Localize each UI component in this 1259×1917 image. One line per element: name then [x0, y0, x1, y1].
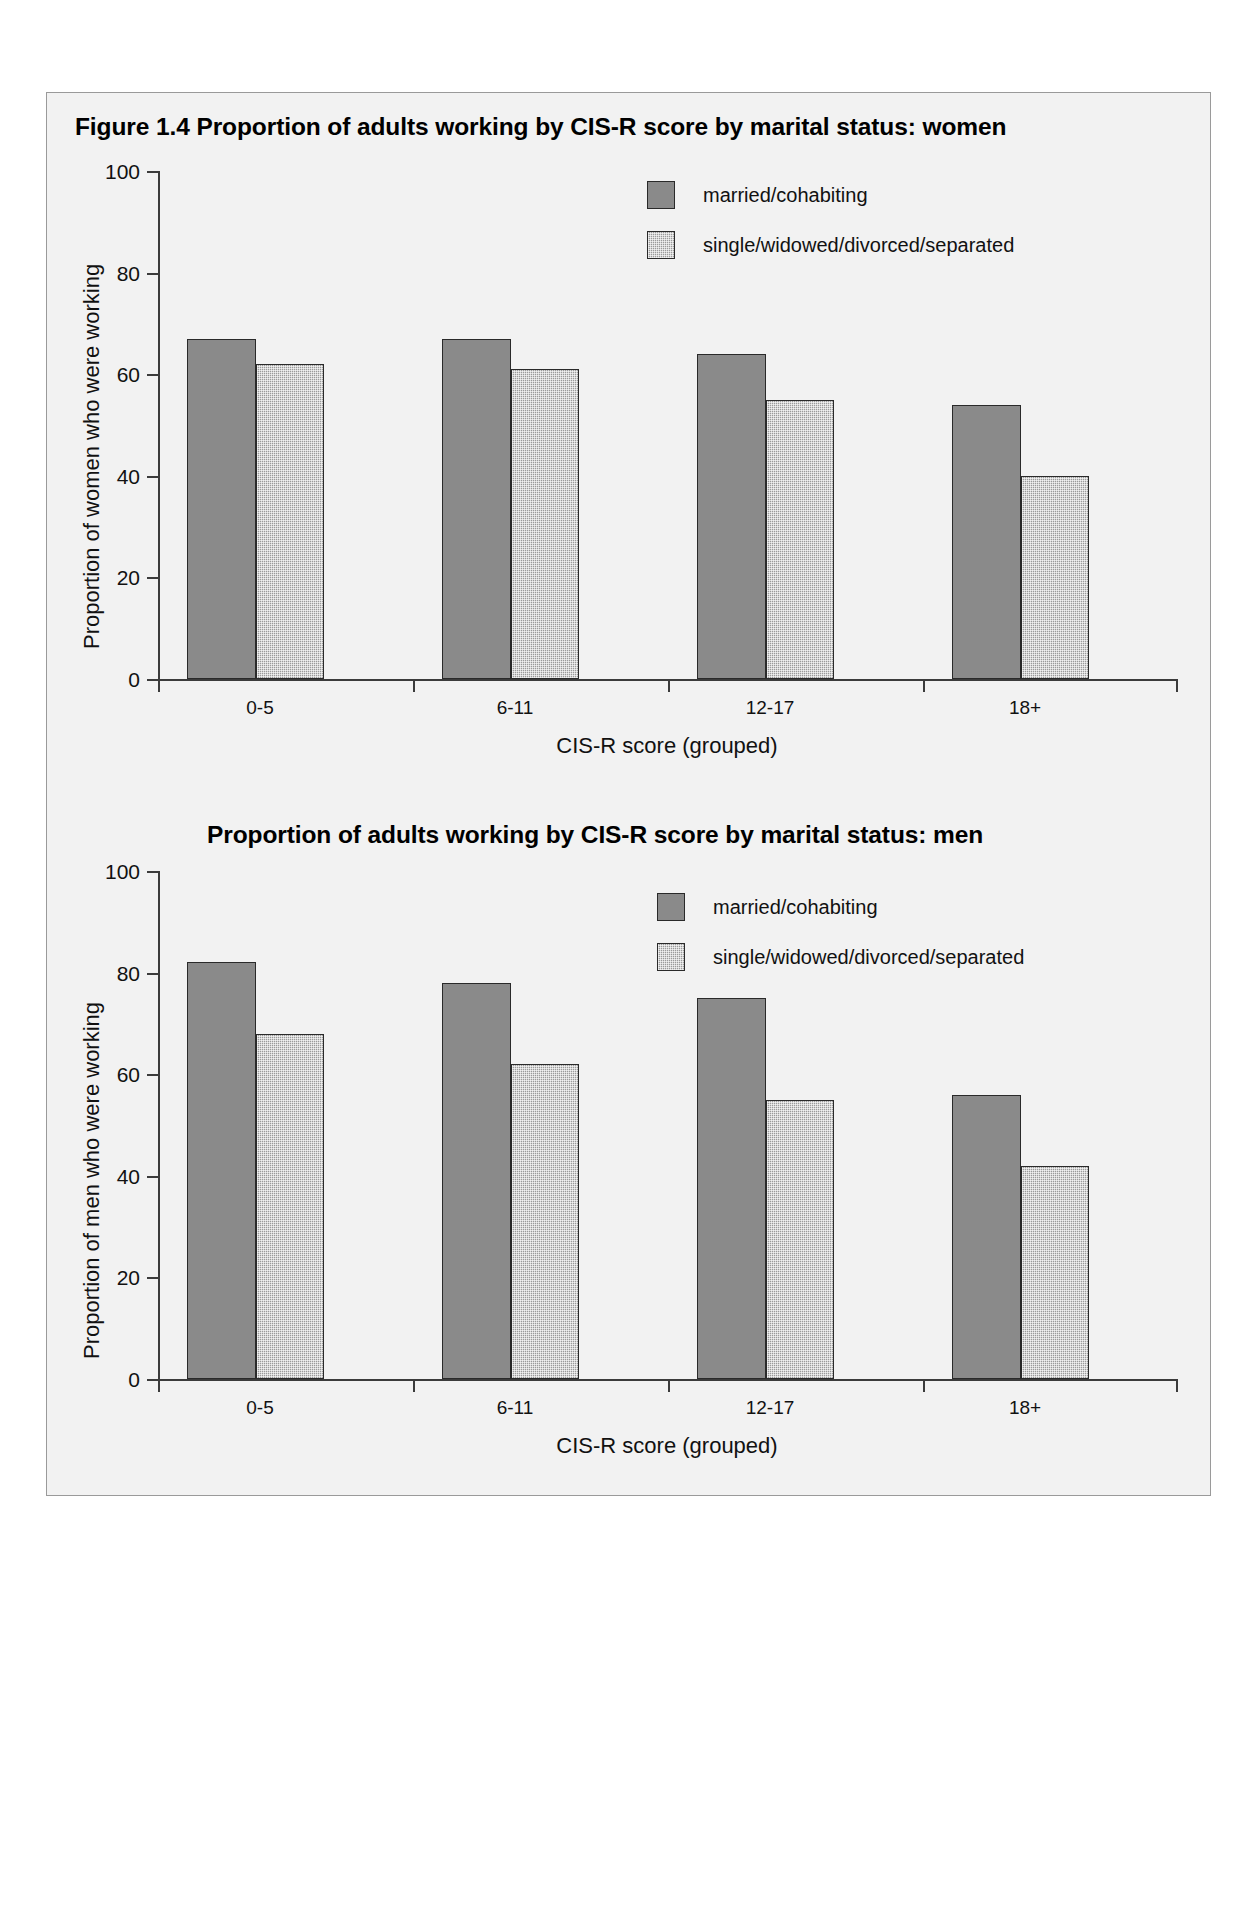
- legend-item-single[interactable]: single/widowed/divorced/separated: [657, 943, 1024, 971]
- bar-men-18plus-s1: [1021, 1166, 1089, 1379]
- bar-women-0-5-s1: [256, 364, 324, 679]
- x-tick-label: 18+: [1009, 697, 1041, 719]
- legend-swatch-stipple-icon: [647, 231, 675, 259]
- y-axis-label-women: Proportion of women who were working: [79, 264, 105, 649]
- bar-women-12-17-s0: [697, 354, 765, 679]
- bar-women-18plus-s0: [952, 405, 1020, 679]
- legend-swatch-stipple-icon: [657, 943, 685, 971]
- figure-women: Figure 1.4 Proportion of adults working …: [47, 93, 1212, 793]
- bar-women-18plus-s1: [1021, 476, 1089, 679]
- y-tick: [147, 374, 158, 376]
- y-axis-women: [158, 171, 160, 681]
- legend-label-married: married/cohabiting: [713, 896, 878, 919]
- legend-women: married/cohabiting single/widowed/divorc…: [647, 181, 1014, 281]
- x-tick-label: 6-11: [497, 697, 534, 719]
- x-tick: [1176, 1381, 1178, 1392]
- x-tick-label: 6-11: [497, 1397, 534, 1419]
- y-tick: [147, 1176, 158, 1178]
- bar-women-6-11-s1: [511, 369, 579, 679]
- y-tick-label: 0: [128, 1368, 140, 1392]
- y-tick-label: 20: [117, 1266, 140, 1290]
- bar-men-12-17-s0: [697, 998, 765, 1379]
- y-tick-label: 100: [105, 160, 140, 184]
- y-tick: [147, 577, 158, 579]
- y-tick: [147, 1074, 158, 1076]
- x-axis-label-men: CIS-R score (grouped): [556, 1433, 777, 1459]
- y-tick: [147, 973, 158, 975]
- x-tick: [1176, 681, 1178, 692]
- bar-men-18plus-s0: [952, 1095, 1020, 1379]
- legend-swatch-solid-icon: [647, 181, 675, 209]
- y-tick-label: 100: [105, 860, 140, 884]
- y-tick: [147, 171, 158, 173]
- x-tick: [413, 681, 415, 692]
- legend-swatch-solid-icon: [657, 893, 685, 921]
- x-tick: [668, 1381, 670, 1392]
- y-tick: [147, 476, 158, 478]
- figure-page: Figure 1.4 Proportion of adults working …: [46, 92, 1211, 1496]
- y-tick: [147, 1379, 158, 1381]
- x-tick: [413, 1381, 415, 1392]
- bar-women-0-5-s0: [187, 339, 255, 679]
- y-tick-label: 20: [117, 566, 140, 590]
- y-tick: [147, 679, 158, 681]
- bar-men-6-11-s0: [442, 983, 510, 1379]
- x-tick-label: 0-5: [246, 1397, 273, 1419]
- y-tick-label: 80: [117, 262, 140, 286]
- x-tick: [668, 681, 670, 692]
- y-tick: [147, 871, 158, 873]
- y-tick-label: 0: [128, 668, 140, 692]
- x-tick: [158, 1381, 160, 1392]
- y-tick: [147, 273, 158, 275]
- legend-label-single: single/widowed/divorced/separated: [703, 234, 1014, 257]
- bar-men-6-11-s1: [511, 1064, 579, 1379]
- y-tick-label: 60: [117, 363, 140, 387]
- x-tick: [923, 681, 925, 692]
- x-tick-label: 0-5: [246, 697, 273, 719]
- legend-item-single[interactable]: single/widowed/divorced/separated: [647, 231, 1014, 259]
- y-tick-label: 80: [117, 962, 140, 986]
- legend-label-single: single/widowed/divorced/separated: [713, 946, 1024, 969]
- y-tick-label: 40: [117, 1165, 140, 1189]
- figure-men: Proportion of adults working by CIS-R sc…: [47, 793, 1212, 1497]
- y-tick: [147, 1277, 158, 1279]
- x-tick-label: 18+: [1009, 1397, 1041, 1419]
- x-tick-label: 12-17: [746, 697, 795, 719]
- legend-item-married[interactable]: married/cohabiting: [657, 893, 1024, 921]
- x-tick: [923, 1381, 925, 1392]
- y-axis-label-men: Proportion of men who were working: [79, 1002, 105, 1359]
- x-axis-label-women: CIS-R score (grouped): [556, 733, 777, 759]
- bar-women-12-17-s1: [766, 400, 834, 679]
- legend-men: married/cohabiting single/widowed/divorc…: [657, 893, 1024, 993]
- bar-men-0-5-s0: [187, 962, 255, 1379]
- page-title: Figure 1.4 Proportion of adults working …: [75, 113, 1006, 141]
- x-tick-label: 12-17: [746, 1397, 795, 1419]
- legend-label-married: married/cohabiting: [703, 184, 868, 207]
- y-tick-label: 60: [117, 1063, 140, 1087]
- legend-item-married[interactable]: married/cohabiting: [647, 181, 1014, 209]
- bar-men-0-5-s1: [256, 1034, 324, 1379]
- x-tick: [158, 681, 160, 692]
- y-axis-men: [158, 871, 160, 1381]
- figure-men-title: Proportion of adults working by CIS-R sc…: [207, 821, 983, 849]
- y-tick-label: 40: [117, 465, 140, 489]
- bar-women-6-11-s0: [442, 339, 510, 679]
- bar-men-12-17-s1: [766, 1100, 834, 1379]
